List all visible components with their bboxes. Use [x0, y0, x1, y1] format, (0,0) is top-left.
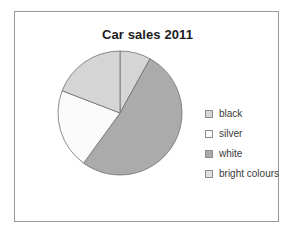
legend-swatch-icon-black	[205, 110, 213, 118]
legend-label-white: white	[219, 149, 242, 159]
legend-swatch-icon-silver	[205, 130, 213, 138]
pie-chart-figure: Car sales 2011 black silver white brigh	[0, 0, 293, 234]
plot-frame: Car sales 2011 black silver white brigh	[14, 11, 279, 222]
legend-label-bright-colours: bright colours	[219, 169, 279, 179]
legend-swatch-icon-white	[205, 150, 213, 158]
pie-slices-group	[58, 51, 182, 175]
pie-plot-area	[57, 50, 183, 176]
legend-label-silver: silver	[219, 129, 242, 139]
legend-item-black[interactable]: black	[205, 104, 293, 124]
legend-item-white[interactable]: white	[205, 144, 293, 164]
legend-label-black: black	[219, 109, 242, 119]
legend: black silver white bright colours	[205, 104, 293, 184]
pie-svg	[57, 50, 183, 176]
legend-item-bright-colours[interactable]: bright colours	[205, 164, 293, 184]
legend-swatch-icon-bright-colours	[205, 170, 213, 178]
chart-title: Car sales 2011	[15, 27, 280, 42]
legend-item-silver[interactable]: silver	[205, 124, 293, 144]
